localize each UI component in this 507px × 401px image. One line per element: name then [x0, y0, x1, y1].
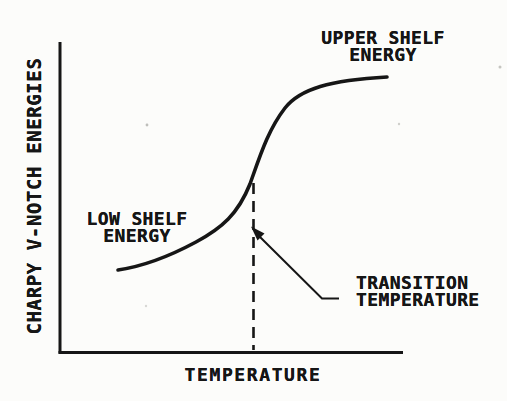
transition-callout-line [259, 236, 339, 299]
transition-temperature-label: TRANSITION TEMPERATURE [356, 274, 480, 308]
transition-temperature-label-line2: TEMPERATURE [356, 291, 480, 308]
y-axis-label: CHARPY V-NOTCH ENERGIES [26, 58, 43, 335]
low-shelf-label: LOW SHELF ENERGY [86, 210, 187, 244]
x-axis-label: TEMPERATURE [185, 366, 322, 383]
upper-shelf-label: UPPER SHELF ENERGY [321, 29, 445, 63]
scan-specks [145, 66, 502, 308]
figure-page: CHARPY V-NOTCH ENERGIES TEMPERATURE UPPE… [0, 0, 507, 401]
low-shelf-label-line2: ENERGY [86, 227, 187, 244]
upper-shelf-label-line2: ENERGY [321, 46, 445, 63]
